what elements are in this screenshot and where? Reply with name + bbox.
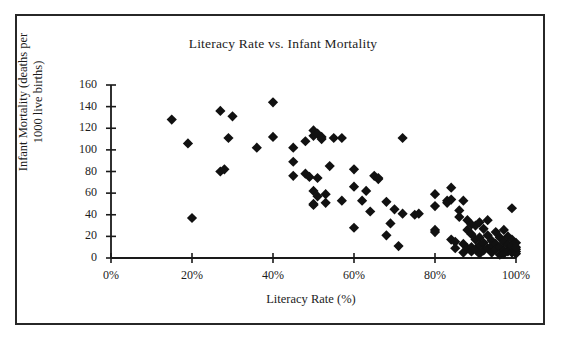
data-point [227, 111, 237, 121]
data-point [458, 196, 468, 206]
data-point [337, 196, 347, 206]
data-point [365, 206, 375, 216]
axes [111, 85, 516, 258]
data-point [312, 173, 322, 183]
data-point [187, 213, 197, 223]
data-point [393, 241, 403, 251]
data-point [288, 143, 298, 153]
y-axis-tick-label: 100 [63, 142, 97, 157]
data-point [361, 186, 371, 196]
data-point [507, 203, 517, 213]
data-point [446, 183, 456, 193]
y-axis-tick-label: 0 [63, 250, 97, 265]
chart-figure: Literacy Rate vs. Infant Mortality Infan… [0, 0, 566, 345]
data-point [349, 223, 359, 233]
y-axis-tick-label: 60 [63, 185, 97, 200]
x-axis-tick-label: 40% [251, 268, 295, 283]
data-point [337, 133, 347, 143]
y-axis-tick-label: 20 [63, 228, 97, 243]
data-point [300, 136, 310, 146]
data-point [389, 204, 399, 214]
data-point [325, 161, 335, 171]
y-axis-tick-label: 140 [63, 99, 97, 114]
data-point [450, 243, 460, 253]
data-point [398, 209, 408, 219]
data-point [288, 171, 298, 181]
data-point [381, 230, 391, 240]
x-axis-tick-label: 60% [332, 268, 376, 283]
data-point [430, 189, 440, 199]
x-axis-tick-label: 100% [494, 268, 538, 283]
data-point [223, 133, 233, 143]
data-point [167, 115, 177, 125]
data-point [268, 132, 278, 142]
y-axis-tick-label: 80 [63, 164, 97, 179]
data-point [252, 143, 262, 153]
data-point [357, 196, 367, 206]
y-axis-tick-label: 160 [63, 77, 97, 92]
data-point [430, 201, 440, 211]
data-point [215, 106, 225, 116]
y-axis-tick-label: 120 [63, 120, 97, 135]
data-point [349, 164, 359, 174]
data-point [381, 197, 391, 207]
data-point [385, 218, 395, 228]
y-axis-tick-label: 40 [63, 207, 97, 222]
data-point [288, 157, 298, 167]
x-axis-tick-label: 80% [413, 268, 457, 283]
data-point [483, 215, 493, 225]
x-axis-tick-label: 20% [170, 268, 214, 283]
data-point [183, 138, 193, 148]
x-axis-tick-label: 0% [89, 268, 133, 283]
data-points [167, 97, 521, 260]
data-point [321, 198, 331, 208]
data-point [398, 133, 408, 143]
data-point [308, 200, 318, 210]
data-point [349, 182, 359, 192]
data-point [268, 97, 278, 107]
